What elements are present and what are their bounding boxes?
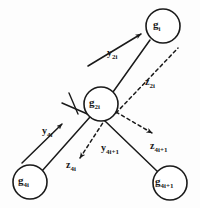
node-label-g4i1-sub: 4i+1 — [161, 182, 174, 190]
node-label-gi-sub: i — [159, 25, 161, 33]
figure-canvas: gi g2i g4i g4i+1 y2i z2i y4i z4i+1 y4i+1… — [0, 0, 200, 208]
axis-label-z4i1-sub: 4i+1 — [154, 146, 167, 154]
node-label-g4i: g4i — [18, 175, 29, 189]
axis-label-y2i: y2i — [107, 48, 117, 61]
node-label-gi: gi — [153, 19, 160, 33]
axis-label-y4i1: y4i+1 — [101, 143, 119, 156]
axis-label-y4i-sub: 4i — [47, 131, 52, 139]
axis-label-z4i: z4i — [66, 160, 76, 173]
axis-label-z4i-sub: 4i — [70, 165, 75, 173]
axis-label-z2i: z2i — [145, 77, 155, 90]
node-gi[interactable] — [146, 9, 180, 43]
axis-label-y2i-sub: 2i — [112, 53, 117, 61]
right-angle-mark-tick — [69, 93, 78, 114]
axis-label-z4i1: z4i+1 — [150, 141, 167, 154]
node-label-g2i: g2i — [89, 97, 100, 111]
axis-label-y4i: y4i — [42, 126, 52, 139]
vector-z4i1 — [116, 112, 152, 133]
axis-label-y4i1-sub: 4i+1 — [106, 148, 119, 156]
node-label-g4i-sub: 4i — [24, 181, 29, 189]
node-label-g4i1: g4i+1 — [155, 176, 173, 190]
node-label-g2i-sub: 2i — [95, 103, 100, 111]
axis-label-z2i-sub: 2i — [149, 82, 154, 90]
